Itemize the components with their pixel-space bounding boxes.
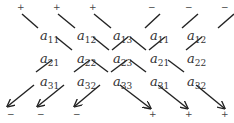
sign-plus: +: [185, 110, 193, 119]
entry-a12: a12: [77, 29, 96, 45]
entry-a12-repeat: a12: [187, 29, 206, 45]
entry-a21: a21: [40, 52, 59, 68]
entry-a22: a22: [77, 52, 96, 68]
entry-a33: a33: [113, 75, 132, 91]
sign-minus: −: [148, 3, 156, 12]
entry-a22-repeat: a22: [187, 52, 206, 68]
entry-a11: a11: [40, 29, 59, 45]
entry-a21-repeat: a21: [150, 52, 169, 68]
sign-minus: −: [7, 110, 15, 119]
entry-a31-repeat: a31: [150, 75, 169, 91]
sign-plus: +: [17, 3, 25, 12]
sign-minus: −: [37, 110, 45, 119]
sign-plus: +: [221, 110, 229, 119]
entry-a32: a32: [77, 75, 96, 91]
sign-plus: +: [149, 110, 157, 119]
sign-plus: +: [89, 3, 97, 12]
sign-minus: −: [221, 3, 229, 12]
entry-a23: a23: [113, 52, 132, 68]
sarrus-diagram: + + + − − − a11 a12 a13 a11 a12 a21 a22 …: [0, 0, 234, 123]
sign-minus: −: [73, 110, 81, 119]
sign-minus: −: [185, 3, 193, 12]
entry-a32-repeat: a32: [187, 75, 206, 91]
entry-a13: a13: [113, 29, 132, 45]
entry-a11-repeat: a11: [150, 29, 169, 45]
sign-plus: +: [53, 3, 61, 12]
entry-a31: a31: [40, 75, 59, 91]
